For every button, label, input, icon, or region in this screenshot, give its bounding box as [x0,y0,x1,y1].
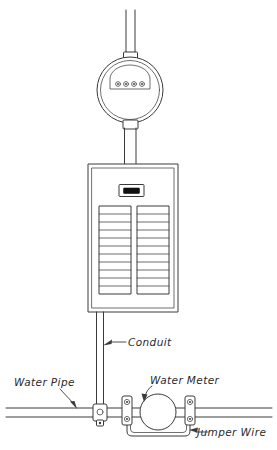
label-water-meter: Water Meter [150,374,220,386]
bonding-clamp-right [185,396,195,425]
water-pipe-leader [60,389,77,409]
water-pipe [6,408,272,417]
grounding-diagram: Conduit Water Pipe Water Meter Jumper Wi… [0,0,277,450]
service-riser-conduit [124,10,138,61]
diagram-canvas: Conduit Water Pipe Water Meter Jumper Wi… [0,0,277,450]
breaker-column-right [137,206,169,294]
electric-meter [97,57,163,123]
label-water-pipe: Water Pipe [14,376,75,388]
conduit-leader [103,340,126,346]
water-meter-body [140,394,176,430]
breaker-column-left [99,206,131,294]
label-conduit: Conduit [128,336,172,348]
grounding-conduit [97,312,104,406]
label-jumper-wire: Jumper Wire [195,426,266,438]
pipe-ground-clamp [93,404,107,426]
breaker-panel [88,164,178,312]
bonding-clamp-left [122,396,132,425]
main-breaker [119,185,144,197]
meter-panel-conduit [123,120,138,165]
